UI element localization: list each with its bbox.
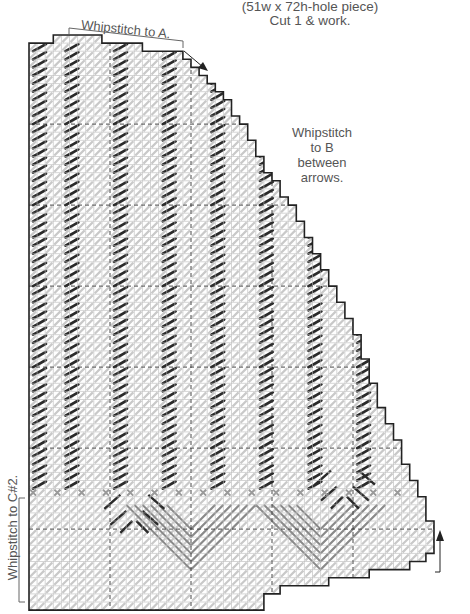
arrow-up-icon bbox=[435, 530, 444, 572]
stitch-chart bbox=[0, 0, 470, 614]
whipstitch-c-bracket bbox=[19, 498, 25, 602]
